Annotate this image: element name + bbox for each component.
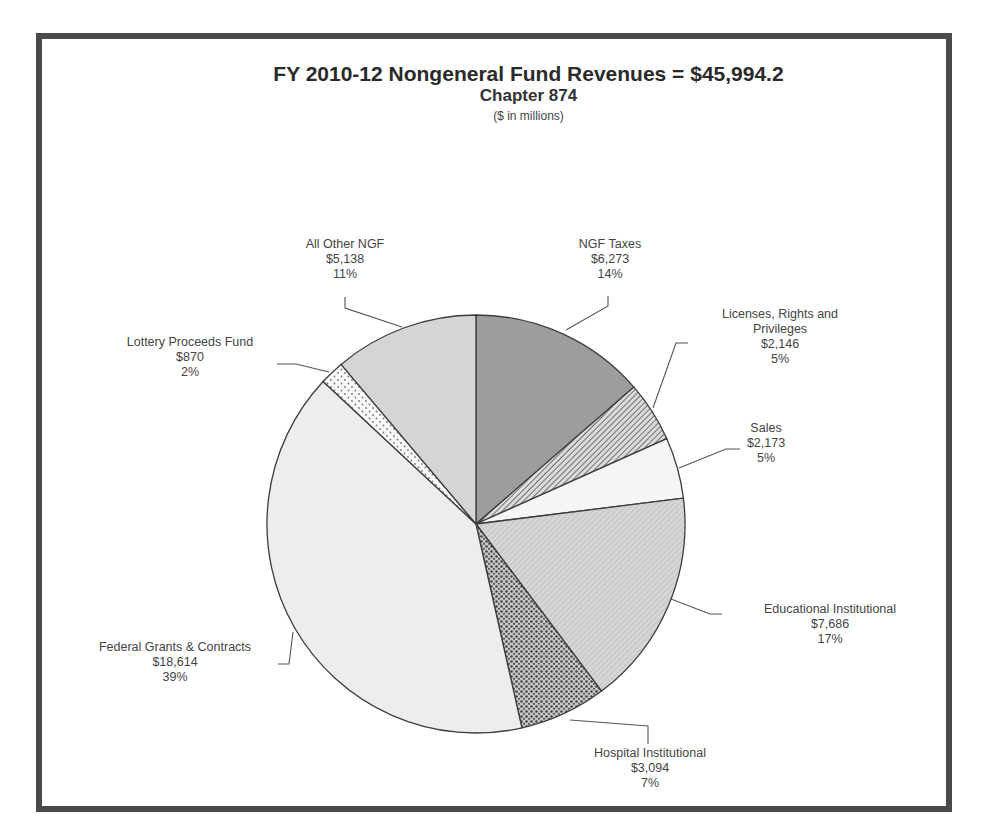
label-percent: 17% — [735, 632, 925, 647]
label-lottery-proceeds-fund: Lottery Proceeds Fund $870 2% — [100, 335, 280, 380]
leader-hospital — [570, 720, 648, 744]
label-licenses-rights-privileges: Licenses, Rights and Privileges $2,146 5… — [680, 307, 880, 367]
leader-educational — [671, 599, 722, 614]
label-name: Licenses, Rights and — [680, 307, 880, 322]
label-value: $2,146 — [680, 337, 880, 352]
label-name-line2: Privileges — [680, 322, 880, 337]
label-value: $7,686 — [735, 617, 925, 632]
label-name: Educational Institutional — [735, 602, 925, 617]
label-value: $5,138 — [275, 252, 415, 267]
label-all-other-ngf: All Other NGF $5,138 11% — [275, 237, 415, 282]
leader-federal — [278, 632, 293, 664]
label-percent: 2% — [100, 365, 280, 380]
label-percent: 39% — [70, 670, 280, 685]
label-name: Hospital Institutional — [560, 746, 740, 761]
label-name: NGF Taxes — [540, 237, 680, 252]
pie-chart — [0, 0, 987, 839]
label-percent: 5% — [726, 451, 806, 466]
label-hospital-institutional: Hospital Institutional $3,094 7% — [560, 746, 740, 791]
label-name: Federal Grants & Contracts — [70, 640, 280, 655]
leader-ngf-taxes — [566, 296, 608, 330]
leader-all-other — [345, 297, 402, 327]
label-educational-institutional: Educational Institutional $7,686 17% — [735, 602, 925, 647]
label-percent: 5% — [680, 352, 880, 367]
label-percent: 7% — [560, 776, 740, 791]
label-value: $3,094 — [560, 761, 740, 776]
label-name: All Other NGF — [275, 237, 415, 252]
label-federal-grants-contracts: Federal Grants & Contracts $18,614 39% — [70, 640, 280, 685]
label-value: $2,173 — [726, 436, 806, 451]
label-name: Lottery Proceeds Fund — [100, 335, 280, 350]
label-value: $6,273 — [540, 252, 680, 267]
label-value: $18,614 — [70, 655, 280, 670]
label-name: Sales — [726, 421, 806, 436]
label-value: $870 — [100, 350, 280, 365]
label-ngf-taxes: NGF Taxes $6,273 14% — [540, 237, 680, 282]
label-percent: 14% — [540, 267, 680, 282]
leader-lottery — [277, 364, 329, 372]
label-sales: Sales $2,173 5% — [726, 421, 806, 466]
label-percent: 11% — [275, 267, 415, 282]
